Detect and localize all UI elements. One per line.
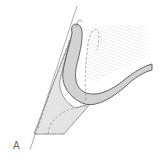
- cross-section-diagram: [0, 0, 168, 163]
- label-a: A: [13, 141, 20, 151]
- lower-region-hatch: [34, 40, 90, 134]
